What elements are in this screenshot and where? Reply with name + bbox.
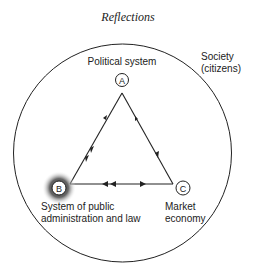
reflections-diagram: A Political system B System of public ad… — [0, 0, 256, 277]
market-economy-label-line2: economy — [165, 213, 206, 224]
public-admin-label-line1: System of public — [41, 201, 114, 212]
node-a-letter: A — [119, 76, 125, 86]
node-a: A — [116, 74, 129, 87]
node-c-letter: C — [180, 184, 187, 194]
public-admin-label-line2: administration and law — [41, 213, 141, 224]
triangle-edges — [70, 93, 173, 184]
node-b: B — [42, 171, 76, 205]
political-system-label: Political system — [88, 56, 157, 67]
society-label-line2: (citizens) — [201, 63, 241, 74]
arrowheads — [85, 115, 159, 187]
society-label-line1: Society — [201, 51, 234, 62]
node-b-letter: B — [56, 184, 62, 194]
node-c: C — [176, 181, 190, 195]
market-economy-label-line1: Market — [165, 201, 196, 212]
